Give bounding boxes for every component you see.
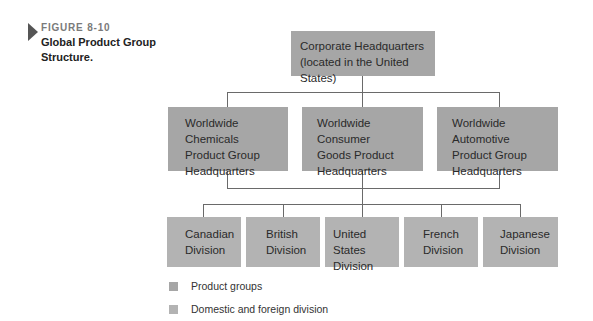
product-group-line2: Goods Product [317, 147, 423, 163]
connector-to-french [441, 204, 442, 217]
connector-level2-horizontal [227, 92, 500, 93]
root-line1: Corporate Headquarters [300, 38, 435, 54]
connector-to-japanese [520, 204, 521, 217]
product-group-line1: Worldwide Chemicals [185, 115, 288, 147]
figure-label: FIGURE 8-10 [41, 22, 156, 34]
product-group-box-consumer: Worldwide Consumer Goods Product Headqua… [302, 107, 423, 171]
division-line2: Division [500, 242, 558, 258]
division-line2: Division [266, 242, 320, 258]
connector-to-consumer [362, 92, 363, 107]
legend-swatch-product-groups [169, 282, 178, 291]
connector-to-us [362, 204, 363, 217]
product-group-line3: Headquarters [317, 163, 423, 179]
division-box-japanese: Japanese Division [483, 217, 558, 267]
connector-to-chemicals [227, 92, 228, 107]
division-line1: United States [333, 226, 399, 258]
product-group-line2: Product Group [452, 147, 558, 163]
root-line2: (located in the United States) [300, 54, 435, 86]
division-box-british: British Division [246, 217, 320, 267]
product-group-box-chemicals: Worldwide Chemicals Product Group Headqu… [168, 107, 288, 171]
connector-merge-horizontal [227, 188, 500, 189]
product-group-line3: Headquarters [452, 163, 558, 179]
connector-to-british [283, 204, 284, 217]
figure-caption: FIGURE 8-10 Global Product Group Structu… [41, 22, 156, 64]
division-line2: Division [333, 258, 399, 274]
product-group-line3: Headquarters [185, 163, 288, 179]
legend-label: Product groups [191, 280, 262, 292]
legend-item-product-groups: Product groups [169, 280, 262, 292]
legend-label: Domestic and foreign division [191, 303, 328, 315]
corporate-headquarters-box: Corporate Headquarters (located in the U… [291, 31, 435, 76]
division-line1: Canadian [185, 226, 241, 242]
figure-marker-icon [28, 23, 38, 41]
division-line2: Division [423, 242, 478, 258]
division-box-united-states: United States Division [325, 217, 399, 267]
division-box-french: French Division [404, 217, 478, 267]
legend-swatch-divisions [169, 305, 178, 314]
division-line1: Japanese [500, 226, 558, 242]
connector-to-automotive [499, 92, 500, 107]
product-group-line2: Product Group [185, 147, 288, 163]
product-group-line1: Worldwide Consumer [317, 115, 423, 147]
division-line1: British [266, 226, 320, 242]
product-group-box-automotive: Worldwide Automotive Product Group Headq… [437, 107, 558, 171]
division-box-canadian: Canadian Division [167, 217, 241, 267]
division-line1: French [423, 226, 478, 242]
division-line2: Division [185, 242, 241, 258]
figure-title-line2: Structure. [41, 50, 156, 64]
figure-title-line1: Global Product Group [41, 35, 156, 49]
product-group-line1: Worldwide Automotive [452, 115, 558, 147]
legend-item-divisions: Domestic and foreign division [169, 303, 328, 315]
connector-to-canadian [203, 204, 204, 217]
